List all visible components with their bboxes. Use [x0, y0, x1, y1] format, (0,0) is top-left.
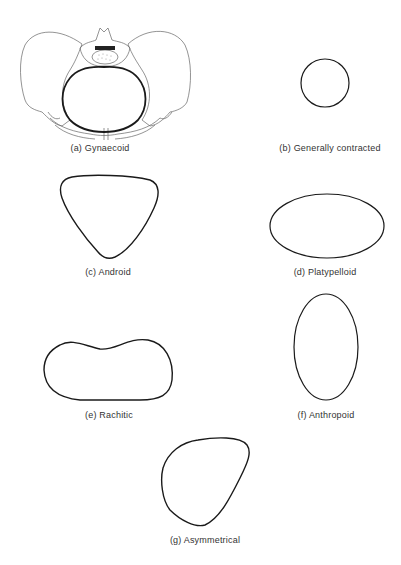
- anthropoid-outline: [294, 294, 358, 400]
- contracted-outline: [301, 59, 349, 107]
- platypelloid-outline: [270, 194, 384, 258]
- label-platypelloid: (d) Platypelloid: [294, 267, 357, 277]
- pelvis-shapes-figure: (a) Gynaecoid (b) Generally contracted (…: [0, 0, 401, 565]
- label-anthropoid: (f) Anthropoid: [298, 410, 355, 420]
- sacral-band: [95, 46, 115, 50]
- gynaecoid-inlet-outline: [63, 67, 146, 132]
- gynaecoid-pelvis-drawing: [20, 28, 190, 140]
- label-asymmetrical: (g) Asymmetrical: [170, 535, 240, 545]
- label-android: (c) Android: [85, 267, 131, 277]
- label-generally-contracted: (b) Generally contracted: [279, 143, 380, 153]
- figure-drawing: [0, 0, 401, 565]
- rachitic-outline: [44, 340, 172, 400]
- asymmetrical-outline: [162, 438, 250, 526]
- android-outline: [60, 175, 158, 258]
- label-rachitic: (e) Rachitic: [85, 410, 133, 420]
- label-gynaecoid: (a) Gynaecoid: [70, 143, 129, 153]
